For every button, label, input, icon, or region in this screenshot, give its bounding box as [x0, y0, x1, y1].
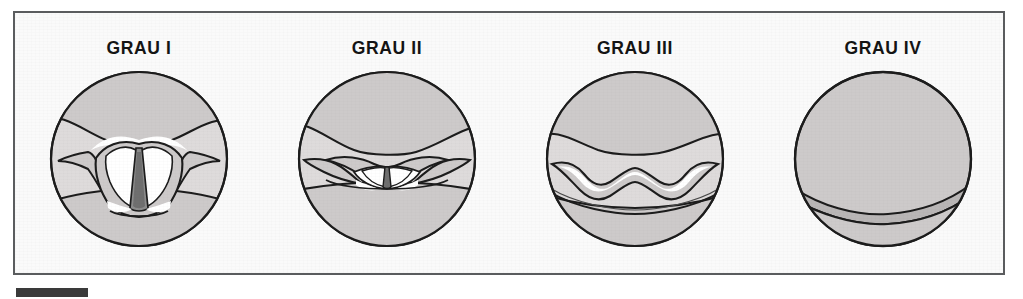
- figure-plate: GRAU I: [13, 11, 1005, 275]
- grade-panel-3: GRAU III: [525, 13, 745, 268]
- grade-1-drawing: [44, 68, 234, 250]
- caption-rule-bar: [16, 288, 88, 297]
- grade-panel-4: GRAU IV: [773, 13, 993, 268]
- grade-illustration-4: [788, 68, 978, 250]
- grade-label-2: GRAU II: [352, 38, 422, 59]
- grade-2-drawing: [292, 68, 482, 250]
- figure-root: GRAU I: [0, 0, 1023, 299]
- grade-illustration-1: [44, 68, 234, 250]
- grade-3-drawing: [540, 68, 730, 250]
- grade-label-3: GRAU III: [597, 38, 673, 59]
- grade-illustration-3: [540, 68, 730, 250]
- grade-label-1: GRAU I: [107, 38, 172, 59]
- grade-4-drawing: [788, 72, 978, 250]
- grade-panels: GRAU I: [15, 13, 1007, 273]
- grade-panel-2: GRAU II: [277, 13, 497, 268]
- grade-illustration-2: [292, 68, 482, 250]
- grade-label-4: GRAU IV: [844, 38, 921, 59]
- grade-panel-1: GRAU I: [29, 13, 249, 268]
